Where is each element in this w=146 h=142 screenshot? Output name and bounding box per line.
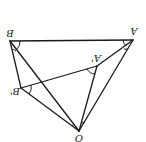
angle-mark-A (123, 40, 126, 46)
angle-mark-B1 (29, 85, 31, 94)
label-B: B (6, 28, 14, 39)
segment-A1-O (79, 66, 97, 131)
label-B-prime: B' (10, 86, 21, 97)
label-A: A (130, 26, 138, 37)
segment-A-O (79, 40, 133, 131)
angle-marks (13, 40, 128, 126)
geometry-diagram: B A A' B' O (0, 0, 146, 142)
label-O: O (75, 133, 83, 142)
angle-mark-A1 (87, 69, 95, 74)
diagram-canvas: B A A' B' O (0, 0, 146, 142)
segment-A1-A (97, 40, 133, 66)
segment-B1-O (21, 88, 79, 131)
label-A-prime: A' (91, 53, 102, 64)
segment-B-A (10, 40, 133, 41)
angle-mark-B (17, 41, 20, 49)
